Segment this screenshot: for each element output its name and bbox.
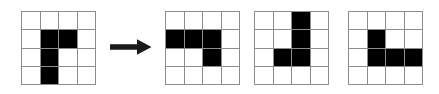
grid-cell-empty: [222, 49, 240, 66]
shape-grid-3: [254, 11, 329, 85]
grid-cell-filled: [274, 49, 292, 66]
grid-cell-empty: [311, 49, 329, 66]
grid-cell-empty: [311, 30, 329, 47]
shape-grid-1: [21, 11, 96, 85]
grid-cell-empty: [311, 67, 329, 84]
grid-cell-empty: [166, 12, 184, 29]
grid-cell-empty: [349, 67, 367, 84]
grid-cell-filled: [203, 49, 221, 66]
grid-cell-empty: [386, 67, 404, 84]
grid-cell-empty: [255, 49, 273, 66]
grid-cell-empty: [59, 67, 77, 84]
grid-cell-filled: [41, 30, 59, 47]
grid-cell-filled: [166, 30, 184, 47]
grid-cell-empty: [22, 30, 40, 47]
grid-cell-empty: [255, 67, 273, 84]
arrow-right-icon: [110, 38, 152, 56]
figure-canvas: [0, 0, 439, 94]
grid-cell-empty: [78, 30, 96, 47]
grid-cell-empty: [222, 67, 240, 84]
grid-cell-empty: [349, 12, 367, 29]
grid-cell-empty: [59, 49, 77, 66]
grid-cell-empty: [22, 12, 40, 29]
grid-cell-empty: [368, 67, 386, 84]
grid-cell-empty: [311, 12, 329, 29]
grid-cell-empty: [78, 49, 96, 66]
grid-cell-filled: [41, 49, 59, 66]
grid-cell-empty: [78, 12, 96, 29]
grid-cell-empty: [274, 12, 292, 29]
grid-cell-empty: [368, 12, 386, 29]
grid-cell-empty: [203, 67, 221, 84]
grid-cell-empty: [185, 49, 203, 66]
grid-cell-empty: [203, 12, 221, 29]
grid-cell-filled: [41, 67, 59, 84]
grid-cell-empty: [166, 49, 184, 66]
grid-cell-empty: [386, 12, 404, 29]
grid-cell-filled: [203, 30, 221, 47]
grid-cell-filled: [292, 12, 310, 29]
grid-cell-filled: [185, 30, 203, 47]
grid-cell-empty: [405, 67, 423, 84]
grid-cell-empty: [22, 49, 40, 66]
grid-cell-empty: [78, 67, 96, 84]
grid-cell-empty: [59, 12, 77, 29]
grid-cell-empty: [386, 30, 404, 47]
grid-cell-empty: [41, 12, 59, 29]
grid-cell-empty: [349, 49, 367, 66]
grid-cell-empty: [405, 12, 423, 29]
grid-cell-empty: [292, 67, 310, 84]
grid-cell-empty: [222, 12, 240, 29]
grid-cell-empty: [255, 30, 273, 47]
grid-cell-filled: [292, 30, 310, 47]
grid-cell-empty: [185, 12, 203, 29]
grid-cell-empty: [349, 30, 367, 47]
grid-cell-empty: [185, 67, 203, 84]
grid-cell-filled: [405, 49, 423, 66]
grid-cell-filled: [368, 30, 386, 47]
grid-cell-filled: [368, 49, 386, 66]
grid-cell-empty: [166, 67, 184, 84]
grid-cell-empty: [22, 67, 40, 84]
grid-cell-filled: [59, 30, 77, 47]
shape-grid-4: [348, 11, 423, 85]
grid-cell-empty: [222, 30, 240, 47]
grid-cell-filled: [386, 49, 404, 66]
grid-cell-empty: [274, 30, 292, 47]
grid-cell-empty: [255, 12, 273, 29]
grid-cell-empty: [405, 30, 423, 47]
shape-grid-2: [165, 11, 240, 85]
grid-cell-empty: [274, 67, 292, 84]
grid-cell-filled: [292, 49, 310, 66]
